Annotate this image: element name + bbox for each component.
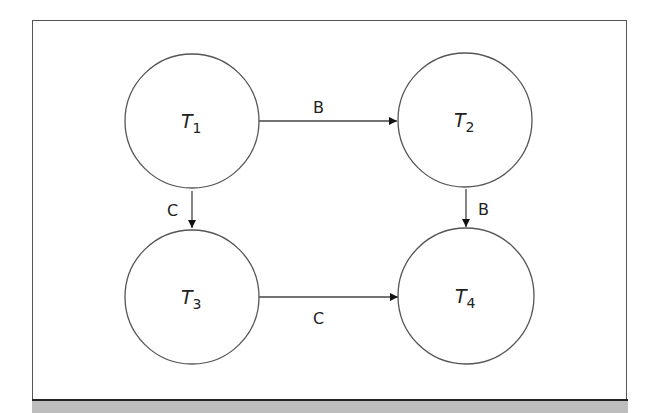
edge-label-t2-t4: B bbox=[478, 200, 489, 219]
node-t3: T3 bbox=[125, 230, 259, 364]
edge-label-t1-t3: C bbox=[167, 201, 178, 220]
edge-label-t3-t4: C bbox=[313, 309, 324, 328]
edge-label-t1-t2: B bbox=[313, 98, 324, 117]
node-t2: T2 bbox=[398, 53, 532, 187]
edge-t2-t4: B bbox=[466, 189, 489, 227]
edge-t1-t2: B bbox=[258, 98, 397, 121]
edge-t1-t3: C bbox=[167, 191, 192, 228]
node-t4: T4 bbox=[398, 228, 534, 364]
transition-graph: B C B C T1 T2 T3 T4 bbox=[0, 0, 650, 413]
node-t1: T1 bbox=[125, 54, 259, 188]
edge-t3-t4: C bbox=[259, 297, 398, 328]
